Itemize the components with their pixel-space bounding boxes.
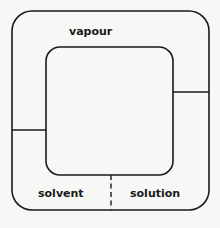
inner-boundary	[46, 47, 173, 175]
outer-boundary	[12, 11, 209, 210]
vapour-label: vapour	[69, 25, 113, 38]
solution-label: solution	[130, 187, 180, 200]
solvent-label: solvent	[38, 187, 84, 200]
phase-diagram: vapour solvent solution	[0, 0, 220, 228]
